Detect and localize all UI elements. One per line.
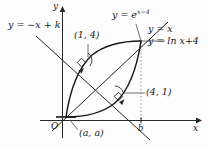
label-curve-log: y = ln x+4 <box>148 36 199 46</box>
label-curve-exp: y = ex−4 <box>112 9 150 20</box>
label-identity-line: y = x <box>148 24 173 34</box>
label-line-k: y = −x + k <box>8 20 60 30</box>
label-tick-b: b <box>138 124 143 133</box>
curve-exp-direction-arrow <box>119 99 125 105</box>
label-curve-exp-exponent: x−4 <box>137 8 150 15</box>
leader-line-aa <box>70 120 78 130</box>
label-point-4-1: (4, 1) <box>146 87 172 97</box>
curve-exp <box>66 41 141 117</box>
axes-group <box>40 6 202 138</box>
origin-label: O <box>51 122 58 131</box>
math-figure: y x O y = −x + k y = ex−4 y = x y = ln x… <box>0 0 208 148</box>
y-axis-arrow <box>60 6 66 12</box>
y-axis-label: y <box>53 2 58 11</box>
curve-log <box>66 41 141 117</box>
label-curve-exp-base: y = e <box>112 9 137 20</box>
x-axis-label: x <box>193 124 198 133</box>
label-point-a-a: (a, a) <box>79 128 104 138</box>
label-point-1-4: (1, 4) <box>74 30 100 40</box>
leader-line-exp <box>136 24 141 41</box>
